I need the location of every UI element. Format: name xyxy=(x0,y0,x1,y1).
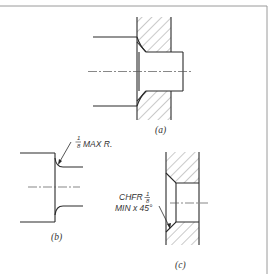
fillet-note: 1 8 MAX R. xyxy=(76,135,113,149)
view-c-chamfered-hole: CHFR 1 8 MIN x 45° (c) xyxy=(115,145,208,271)
svg-text:CHFR: CHFR xyxy=(119,192,143,202)
svg-text:1: 1 xyxy=(77,135,80,141)
svg-text:8: 8 xyxy=(77,143,81,149)
view-label-b: (b) xyxy=(51,232,62,243)
svg-text:MAX R.: MAX R. xyxy=(83,139,112,149)
chamfer-note: CHFR 1 8 MIN x 45° xyxy=(115,191,153,213)
svg-text:MIN x 45°: MIN x 45° xyxy=(115,203,153,213)
view-b-shaft-fillet: 1 8 MAX R. (b) xyxy=(20,135,112,243)
view-label-c: (c) xyxy=(175,260,186,271)
view-a-shaft-in-plate: (a) xyxy=(88,10,191,136)
view-label-a: (a) xyxy=(155,125,166,136)
figure-frame xyxy=(0,6,267,274)
leader-arrow-icon xyxy=(58,159,62,165)
svg-text:1: 1 xyxy=(146,191,149,197)
technical-drawing: (a) 1 8 MAX R. (b) CHFR xyxy=(0,0,272,278)
